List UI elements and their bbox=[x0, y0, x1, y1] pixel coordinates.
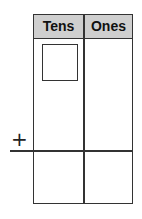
tens-answer-box[interactable] bbox=[42, 44, 78, 81]
plus-sign: + bbox=[11, 129, 28, 149]
column-divider bbox=[83, 15, 85, 203]
sum-line bbox=[10, 150, 133, 152]
header-ones: Ones bbox=[84, 15, 133, 37]
header-tens: Tens bbox=[34, 15, 83, 37]
place-value-chart: Tens Ones bbox=[33, 14, 133, 204]
